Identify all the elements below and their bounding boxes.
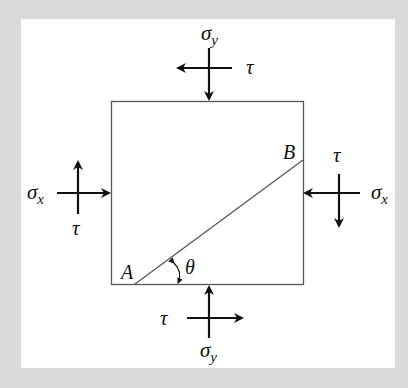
left-stress-arrows: [57, 162, 109, 214]
sigma-x-right-label: σx: [371, 180, 388, 207]
top-stress-arrows: [178, 48, 232, 99]
tau-top-label: τ: [246, 55, 255, 79]
stress-element-box: [112, 102, 304, 285]
stress-element-diagram: σy τ σx τ τ σx τ σy A B θ: [0, 0, 408, 388]
point-b-label: B: [283, 141, 295, 163]
angle-theta-arc: [174, 263, 180, 283]
right-stress-arrows: [305, 174, 360, 226]
point-a-label: A: [119, 261, 134, 283]
inclined-plane-ab: [135, 160, 303, 284]
tau-right-label: τ: [333, 143, 342, 167]
angle-theta-label: θ: [185, 256, 195, 278]
bottom-stress-arrows: [187, 287, 242, 338]
sigma-y-bottom-label: σy: [200, 338, 217, 365]
tau-left-label: τ: [72, 216, 81, 240]
sigma-y-top-label: σy: [201, 21, 218, 48]
sigma-x-left-label: σx: [27, 180, 44, 207]
tau-bottom-label: τ: [160, 306, 169, 330]
